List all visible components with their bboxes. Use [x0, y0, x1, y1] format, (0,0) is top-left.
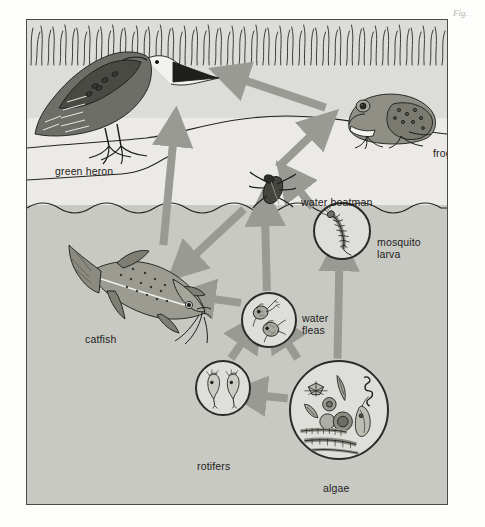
food-web-figure: green heron frog water boatman mosquito …	[26, 19, 448, 505]
algae-circle	[289, 360, 389, 460]
label-water-fleas: water fleas	[302, 312, 328, 336]
frog-illustration	[337, 88, 443, 150]
label-rotifers: rotifers	[197, 460, 230, 472]
label-catfish: catfish	[85, 333, 116, 345]
arrow-water-boatman-to-frog	[278, 126, 322, 168]
mosquito-larva-circle	[313, 202, 371, 260]
label-water-boatman: water boatman	[301, 196, 372, 208]
arrow-algae-to-mosquito-larva	[338, 254, 340, 359]
green-heron-illustration	[31, 42, 221, 172]
arrow-algae-to-rotifers	[250, 394, 288, 398]
label-algae: algae	[323, 482, 349, 494]
label-green-heron: green heron	[55, 165, 113, 177]
arrow-water-fleas-to-water-boatman	[265, 209, 267, 291]
figure-page: Fig.	[0, 0, 485, 527]
rotifers-circle	[195, 360, 251, 416]
arrow-frog-to-green-heron	[231, 76, 326, 108]
label-mosquito-larva: mosquito larva	[377, 236, 421, 260]
margin-note: Fig.	[453, 8, 483, 18]
water-boatman-illustration	[249, 168, 297, 210]
catfish-illustration	[61, 235, 211, 345]
label-frog: frog	[433, 147, 448, 159]
water-fleas-circle	[241, 292, 297, 348]
